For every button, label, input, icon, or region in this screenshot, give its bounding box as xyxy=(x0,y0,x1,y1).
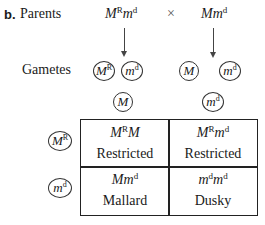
cell-phenotype: Restricted xyxy=(169,146,257,162)
column-header-circle: M xyxy=(113,92,133,112)
cell-genotype: MRM xyxy=(81,125,169,141)
cell-genotype: Mmd xyxy=(81,172,169,188)
cell-phenotype: Mallard xyxy=(81,193,169,209)
gamete-circle: M xyxy=(179,61,199,81)
gametes-row-label: Gametes xyxy=(22,62,71,78)
gamete-circle: MR xyxy=(93,61,115,81)
cell-genotype: mdmd xyxy=(169,172,257,188)
punnett-cell: Mmd Mallard xyxy=(81,167,169,214)
punnett-cell: MRmd Restricted xyxy=(169,120,257,167)
cell-genotype: MRmd xyxy=(169,125,257,141)
cell-phenotype: Dusky xyxy=(169,193,257,209)
row-header-circle: md xyxy=(48,178,72,198)
parent2-genotype: Mmd xyxy=(201,6,227,22)
part-label: b. xyxy=(4,7,16,22)
punnett-cell: MRM Restricted xyxy=(81,120,169,167)
parent1-genotype: MRmd xyxy=(105,6,137,22)
punnett-cell: mdmd Dusky xyxy=(169,167,257,214)
punnett-square: MRM Restricted MRmd Restricted Mmd Malla… xyxy=(80,119,258,216)
gamete-circle: md xyxy=(219,61,241,81)
cell-phenotype: Restricted xyxy=(81,146,169,162)
column-header-circle: md xyxy=(202,92,224,112)
gamete-circle: md xyxy=(121,61,143,81)
parents-row-label: Parents xyxy=(20,6,61,22)
row-header-circle: MR xyxy=(48,131,72,151)
cross-symbol: × xyxy=(167,6,175,22)
